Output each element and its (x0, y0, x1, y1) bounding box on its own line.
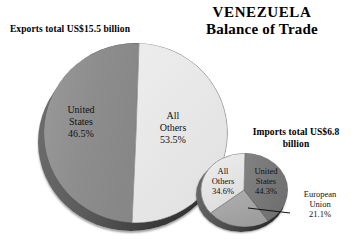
imports-label-united-states: United States 44.3% (243, 166, 289, 197)
exports-total-caption: Exports total US$15.5 billion (6, 24, 134, 36)
imports-label-united-states-line2: States (243, 176, 289, 186)
exports-total-caption-line2: US$15.5 billion (67, 24, 130, 34)
imports-label-all-others-line2: Others (201, 176, 245, 186)
imports-total-caption-line1: Imports total (253, 127, 308, 137)
imports-label-united-states-percent: 44.3% (243, 186, 289, 196)
imports-label-all-others: All Others 34.6% (201, 166, 245, 197)
european-union-leader-line (248, 207, 290, 214)
chart-figure: VENEZUELA Balance of Trade Exports total… (0, 0, 351, 251)
imports-label-european-union-line1: European (291, 189, 349, 199)
imports-label-all-others-percent: 34.6% (201, 186, 245, 196)
chart-title: VENEZUELA Balance of Trade (176, 4, 348, 38)
chart-title-country: VENEZUELA (176, 4, 348, 21)
exports-label-all-others-line1: All (140, 110, 206, 122)
exports-label-all-others-percent: 53.5% (140, 134, 206, 146)
imports-label-european-union: European Union 21.1% (291, 189, 349, 220)
imports-total-caption: Imports total US$6.8 billion (243, 127, 349, 150)
imports-label-all-others-line1: All (201, 166, 245, 176)
exports-label-united-states-line1: United (47, 104, 115, 116)
exports-label-all-others: All Others 53.5% (140, 110, 206, 146)
imports-label-european-union-percent: 21.1% (291, 209, 349, 219)
imports-label-european-union-line2: Union (291, 199, 349, 209)
exports-label-united-states-percent: 46.5% (47, 128, 115, 140)
exports-label-united-states-line2: States (47, 116, 115, 128)
exports-total-caption-line1: Exports total (10, 24, 64, 34)
imports-label-united-states-line1: United (243, 166, 289, 176)
chart-title-subject: Balance of Trade (176, 21, 348, 38)
exports-label-all-others-line2: Others (140, 122, 206, 134)
exports-label-united-states: United States 46.5% (47, 104, 115, 140)
